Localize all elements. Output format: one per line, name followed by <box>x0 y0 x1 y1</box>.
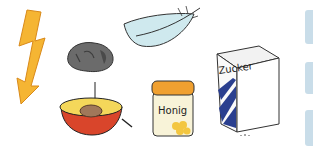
sugar-box-illustration: Zucker <box>215 38 285 136</box>
answer-box-1[interactable] <box>305 10 313 44</box>
sugar-box-icon: Zucker <box>215 38 285 136</box>
plum-illustration <box>58 97 133 137</box>
honey-label: Honig <box>158 105 187 116</box>
lightning-illustration <box>15 8 51 106</box>
feather-illustration <box>122 6 202 52</box>
feather-icon <box>122 6 202 52</box>
plum-icon <box>58 97 133 137</box>
stone-illustration <box>64 40 116 74</box>
honey-jar-illustration: Honig <box>150 78 196 138</box>
honey-jar-icon: Honig <box>150 78 196 138</box>
answer-box-3[interactable] <box>305 110 313 146</box>
lightning-icon <box>15 8 51 106</box>
stone-icon <box>64 40 116 74</box>
answer-box-2[interactable] <box>305 62 313 94</box>
